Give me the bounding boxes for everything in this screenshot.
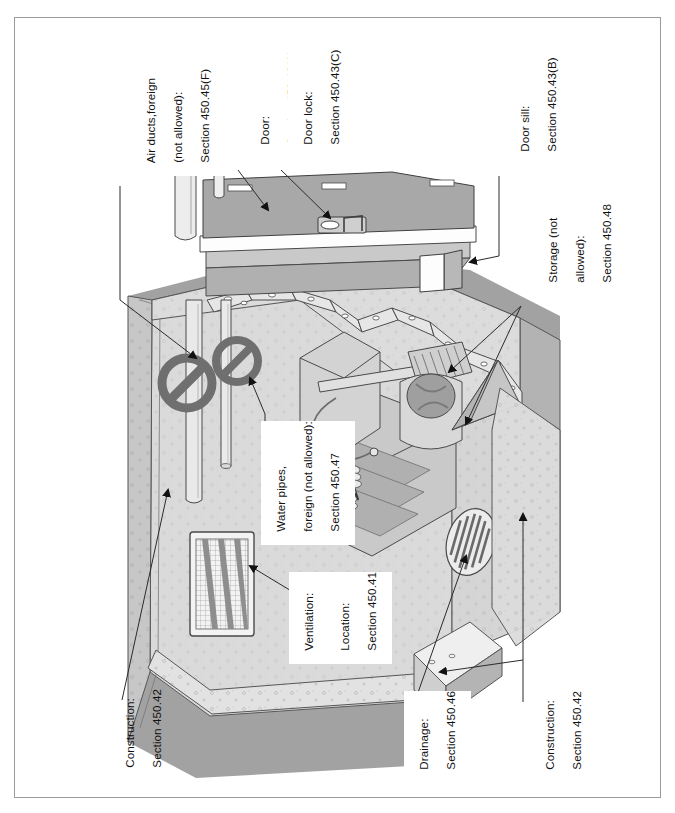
- diagram-canvas: Air ducts,foreign (not allowed): Section…: [0, 0, 675, 813]
- callout-drainage-line-1: Drainage:: [417, 719, 430, 770]
- vault-buttress-right: [492, 388, 560, 646]
- callout-location-line-1: Location:: [338, 603, 351, 651]
- callout-door-lock-line-1: Door lock:: [301, 92, 314, 145]
- callout-storage: Storage (not allowed): Section 450.48: [533, 204, 627, 296]
- callout-door-line-1: Door:: [258, 116, 271, 145]
- transformer-fan-housing: [400, 374, 462, 449]
- callout-door-lock: Door lock: Section 450.43(C): [288, 50, 355, 158]
- callout-construction-right-line-1: Construction:: [543, 700, 556, 770]
- door-sill-curb: [420, 250, 462, 292]
- callout-construction-right-line-2: Section 450.42: [570, 691, 583, 770]
- callout-water-pipes-line-2: foreign (not allowed):: [301, 421, 314, 531]
- callout-water-pipes: Water pipes, foreign (not allowed): Sect…: [261, 421, 355, 545]
- callout-location: Location: Section 450.41: [325, 572, 392, 664]
- callout-storage-line-3: Section 450.48: [600, 204, 613, 283]
- callout-ventilation-line-1: Ventilation:: [302, 593, 315, 651]
- callout-construction-left: Construction: Section 450.42: [110, 689, 177, 781]
- ventilation-louver: [190, 532, 254, 636]
- callout-construction-right: Construction: Section 450.42: [530, 691, 597, 783]
- callout-air-ducts-line-2: (not allowed):: [171, 92, 184, 163]
- callout-drainage: Drainage: Section 450.46: [404, 691, 471, 783]
- callout-air-ducts-line-1: Air ducts,foreign: [144, 78, 157, 163]
- callout-construction-left-line-2: Section 450.42: [150, 689, 163, 768]
- callout-air-ducts-line-3: Section 450.45(F): [198, 69, 211, 163]
- callout-door-sill-line-2: Section 450.43(B): [545, 57, 558, 152]
- callout-door-sill: Door sill: Section 450.43(B): [505, 57, 572, 165]
- door-lock-hasp[interactable]: [318, 216, 366, 233]
- callout-construction-left-line-1: Construction:: [123, 698, 136, 768]
- callout-water-pipes-line-1: Water pipes,: [274, 466, 287, 532]
- callout-door-lock-line-2: Section 450.43(C): [328, 50, 341, 145]
- callout-storage-line-2: allowed):: [573, 235, 586, 282]
- callout-water-pipes-line-3: Section 450.47: [328, 453, 341, 532]
- callout-location-line-2: Section 450.41: [365, 572, 378, 651]
- callout-door-sill-line-1: Door sill:: [518, 106, 531, 152]
- callout-storage-line-1: Storage (not: [546, 218, 559, 283]
- callout-drainage-line-2: Section 450.46: [444, 691, 457, 770]
- callout-air-ducts: Air ducts,foreign (not allowed): Section…: [131, 69, 225, 176]
